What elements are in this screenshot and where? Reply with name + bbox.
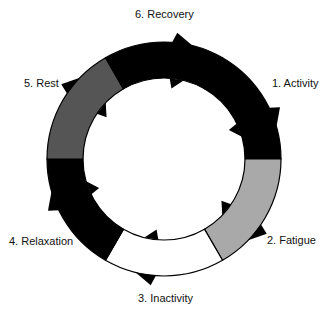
segment-rest: [47, 58, 124, 159]
label-relaxation: 4. Relaxation: [9, 235, 73, 247]
label-inactivity: 3. Inactivity: [138, 292, 193, 304]
cycle-diagram: [0, 0, 329, 316]
label-recovery: 6. Recovery: [135, 8, 194, 20]
segment-recovery: [106, 42, 223, 89]
label-fatigue: 2. Fatigue: [267, 234, 316, 246]
ring-segments: [47, 42, 281, 276]
label-rest: 5. Rest: [24, 77, 59, 89]
segment-inactivity: [106, 229, 223, 276]
label-activity: 1. Activity: [272, 77, 318, 89]
